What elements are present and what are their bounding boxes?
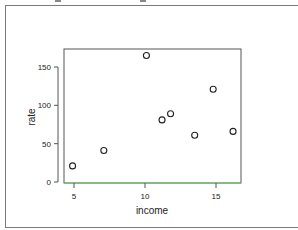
data-point <box>192 132 198 138</box>
y-tick-label: 100 <box>38 101 52 110</box>
x-tick-label: 5 <box>72 192 77 201</box>
data-point <box>159 117 165 123</box>
y-tick-label: 150 <box>38 63 52 72</box>
x-tick-label: 10 <box>141 192 150 201</box>
data-point <box>143 53 149 59</box>
y-tick-label: 0 <box>47 178 52 187</box>
data-point <box>210 86 216 92</box>
data-point <box>101 148 107 154</box>
y-axis-title: rate <box>26 108 37 126</box>
data-point <box>230 128 236 134</box>
x-tick-label: 15 <box>212 192 221 201</box>
x-axis: 51015 <box>72 183 221 201</box>
y-axis: 050100150 <box>38 63 58 187</box>
y-tick-label: 50 <box>42 140 51 149</box>
scatter-plot: 050100150 51015 income rate <box>0 0 298 230</box>
x-axis-title: income <box>136 205 169 216</box>
data-points <box>70 53 236 169</box>
plot-area <box>64 49 241 183</box>
data-point <box>70 163 76 169</box>
data-point <box>168 111 174 117</box>
